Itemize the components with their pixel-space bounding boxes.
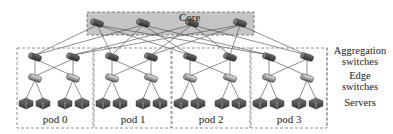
edge-switch-icon-p2-0 xyxy=(183,73,197,83)
server-icon-p1-2 xyxy=(136,98,150,109)
edge-label-line1: Edge xyxy=(328,70,392,81)
aggregation-label-line2: switches xyxy=(328,56,392,67)
server-icon-p2-0 xyxy=(174,98,188,109)
aggregation-switch-icon-p1-0 xyxy=(105,52,119,62)
server-icon-p3-2 xyxy=(292,98,306,109)
server-icon-p2-1 xyxy=(191,98,205,109)
server-icon-p0-0 xyxy=(19,98,33,109)
aggregation-switches-label: Aggregation switches xyxy=(328,45,392,67)
edge-switch-icon-p3-0 xyxy=(262,73,276,83)
edge-label-line2: switches xyxy=(328,81,392,92)
aggregation-switch-icon-p3-1 xyxy=(300,52,314,62)
server-icon-p3-0 xyxy=(253,98,267,109)
server-icon-p2-3 xyxy=(232,98,246,109)
aggregation-switch-icon-p2-0 xyxy=(183,52,197,62)
pod-label-1: pod 1 xyxy=(103,113,163,125)
server-icon-p1-0 xyxy=(96,98,110,109)
edge-switch-icon-p0-0 xyxy=(28,73,42,83)
pod-label-0: pod 0 xyxy=(25,113,85,125)
server-icon-p0-2 xyxy=(58,98,72,109)
servers-label-line1: Servers xyxy=(328,97,392,108)
server-icon-p0-3 xyxy=(75,98,89,109)
edge-switch-icon-p3-1 xyxy=(300,73,314,83)
server-icon-p1-3 xyxy=(153,98,167,109)
server-icon-p2-2 xyxy=(215,98,229,109)
edge-switch-icon-p0-1 xyxy=(66,73,80,83)
aggregation-switch-icon-p3-0 xyxy=(262,52,276,62)
edge-switches-label: Edge switches xyxy=(328,70,392,92)
edge-switch-icon-p1-1 xyxy=(144,73,158,83)
core-label: Core xyxy=(179,11,200,23)
edge-switch-icon-p1-0 xyxy=(105,73,119,83)
server-icon-p3-1 xyxy=(270,98,284,109)
servers-label: Servers xyxy=(328,97,392,108)
server-icon-p3-3 xyxy=(309,98,323,109)
aggregation-label-line1: Aggregation xyxy=(328,45,392,56)
edge-switch-icon-p2-1 xyxy=(223,73,237,83)
aggregation-switch-icon-p2-1 xyxy=(223,52,237,62)
pod-label-3: pod 3 xyxy=(259,113,319,125)
pod-label-2: pod 2 xyxy=(181,113,241,125)
server-icon-p1-1 xyxy=(113,98,127,109)
server-icon-p0-1 xyxy=(36,98,50,109)
